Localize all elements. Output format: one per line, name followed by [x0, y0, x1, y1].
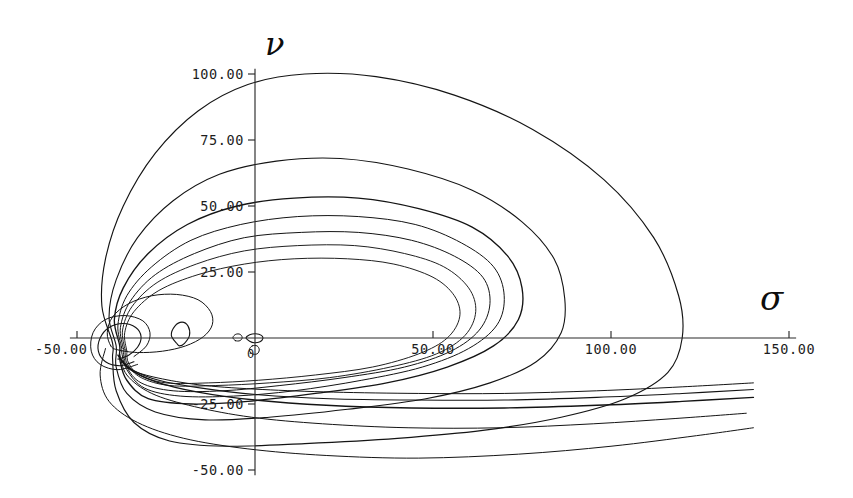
trajectory-loop-3: [114, 197, 523, 404]
origin-label: 0: [247, 347, 254, 361]
trajectory-loop-7: [124, 258, 460, 383]
trajectory-loop-4: [118, 216, 504, 397]
x-tick-label: 50.00: [411, 341, 455, 357]
y-tick-label: -25.00: [192, 396, 244, 412]
axis-labels-group: -50.0050.00100.00150.00100.0075.0050.002…: [35, 66, 815, 478]
x-tick-label: 100.00: [585, 341, 637, 357]
x-tick-label: 150.00: [763, 341, 815, 357]
y-tick-label: 75.00: [200, 132, 244, 148]
trajectory-tail-bundle-c: [122, 360, 754, 393]
y-tick-label: 100.00: [192, 66, 244, 82]
y-axis-ticks: [248, 74, 255, 470]
y-tick-label: -50.00: [192, 462, 244, 478]
x-axis-label: σ: [760, 278, 784, 318]
axes-group: [70, 69, 796, 476]
y-tick-label: 25.00: [200, 264, 244, 280]
y-tick-label: 50.00: [200, 198, 244, 214]
trajectory-group: [91, 73, 754, 458]
trajectory-small-ellipse-left: [171, 322, 189, 346]
trajectory-loop-6: [122, 245, 475, 386]
phase-portrait-figure: -50.0050.00100.00150.00100.0075.0050.002…: [0, 0, 853, 498]
trajectory-loop-5: [120, 232, 490, 392]
y-axis-label: ν: [265, 25, 284, 63]
x-tick-label: -50.00: [35, 341, 87, 357]
